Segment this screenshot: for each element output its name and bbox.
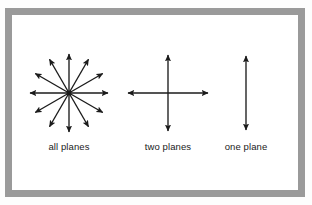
panel-two-planes xyxy=(128,55,208,131)
panel-label-one-plane: one plane xyxy=(225,141,268,152)
polarization-planes-diagram xyxy=(0,0,312,205)
star-center-dot xyxy=(67,91,72,96)
panel-label-two-planes: two planes xyxy=(145,141,191,152)
panel-all-planes xyxy=(30,54,108,132)
panel-label-all-planes: all planes xyxy=(48,141,89,152)
figure-root: all planes two planes one plane xyxy=(0,0,312,205)
